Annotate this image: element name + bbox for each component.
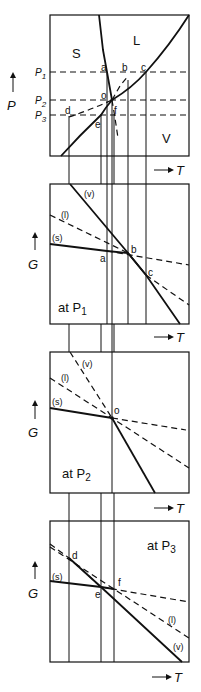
curve-label-l-p3: (l) xyxy=(168,615,176,625)
panel-caption-p2: at P2 xyxy=(62,466,91,483)
curve-label-l-p1: (l) xyxy=(61,210,69,220)
projection-lines xyxy=(69,72,146,662)
t-axis-arrowhead-icon xyxy=(168,167,174,173)
point-label-e-p3: e xyxy=(95,589,101,600)
g-t-panel-p3: (s) (l) (v) d e f at P3 G T xyxy=(28,521,189,685)
point-label-a: a xyxy=(101,62,107,73)
point-label-a-p1: a xyxy=(100,253,106,264)
g-t-panel-p1: (v) (l) (s) a b c at P1 G T xyxy=(28,184,189,345)
phase-diagram-panel: S L V a b c o d e f P1 P2 P3 P T xyxy=(7,15,189,178)
p-axis-label: P xyxy=(7,98,16,113)
t-axis-label-p3: T xyxy=(174,670,183,685)
curve-solid-p1-metastable xyxy=(107,251,189,265)
g-axis-arrowhead-icon-p2 xyxy=(32,400,38,406)
curve-label-l-p2: (l) xyxy=(61,373,69,383)
point-label-f: f xyxy=(114,105,117,116)
point-label-o-p2: o xyxy=(114,405,120,416)
region-label-liquid: L xyxy=(133,33,140,48)
triple-point-marker xyxy=(110,416,114,420)
curve-solid-p1-stable xyxy=(50,244,107,251)
point-label-c: c xyxy=(141,62,146,73)
metastable-vaporization-extension xyxy=(112,76,128,100)
t-axis-arrowhead-icon-p3 xyxy=(166,674,172,680)
region-label-solid: S xyxy=(72,46,81,61)
region-label-vapor: V xyxy=(162,131,171,146)
curve-liquid-p1-metastable-right xyxy=(146,275,189,305)
t-axis-arrowhead-icon-p2 xyxy=(168,505,174,511)
point-label-d: d xyxy=(65,105,71,116)
pressure-label-p3: P3 xyxy=(35,110,47,124)
curve-solid-p2-metastable xyxy=(112,418,186,430)
curve-liquid-p2 xyxy=(50,378,189,468)
panel-caption-p3: at P3 xyxy=(147,538,176,555)
curve-label-v-p3: (v) xyxy=(173,642,184,652)
point-label-e: e xyxy=(95,119,101,130)
pressure-label-p1: P1 xyxy=(35,67,46,81)
point-label-b: b xyxy=(122,62,128,73)
point-label-f-p3: f xyxy=(118,577,121,588)
point-label-o: o xyxy=(101,90,107,101)
curve-vapor-p2-stable xyxy=(112,418,155,493)
phase-diagram-figure: S L V a b c o d e f P1 P2 P3 P T (v) xyxy=(0,0,201,692)
curve-vapor-p3-stable-segment xyxy=(69,558,101,587)
g-axis-label-p3: G xyxy=(28,586,38,601)
point-label-d-p3: d xyxy=(72,550,78,561)
curve-solid-p2-stable xyxy=(50,408,112,418)
curve-label-s-p1: (s) xyxy=(52,233,63,243)
g-axis-label-p1: G xyxy=(28,257,38,272)
g-axis-label-p2: G xyxy=(28,425,38,440)
curve-label-s-p3: (s) xyxy=(52,572,63,582)
g-axis-arrowhead-icon-p1 xyxy=(32,232,38,238)
p-axis-arrowhead-icon xyxy=(10,72,16,78)
pressure-label-p2: P2 xyxy=(35,95,47,109)
t-axis-label: T xyxy=(176,163,185,178)
t-axis-label-p2: T xyxy=(176,501,185,516)
curve-vapor-p1 xyxy=(70,184,180,324)
t-axis-arrowhead-icon-p1 xyxy=(168,334,174,340)
curve-label-v-p2: (v) xyxy=(82,359,93,369)
panel-caption-p1: at P1 xyxy=(58,300,87,317)
point-label-b-p1: b xyxy=(131,244,137,255)
curve-liquid-p1-stable xyxy=(107,251,146,275)
g-axis-arrowhead-icon-p3 xyxy=(32,561,38,567)
curve-label-s-p2: (s) xyxy=(52,397,63,407)
t-axis-label-p1: T xyxy=(176,330,185,345)
point-label-c-p1: c xyxy=(148,267,153,278)
g-t-panel-p2: (v) (l) (s) o at P2 G T xyxy=(28,352,189,516)
curve-label-v-p1: (v) xyxy=(84,189,95,199)
melting-curve xyxy=(99,15,112,100)
